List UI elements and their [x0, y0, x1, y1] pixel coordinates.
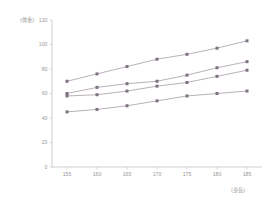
data-point-marker: [156, 99, 159, 102]
x-tick-label: 185: [243, 171, 252, 177]
data-point-marker: [186, 53, 189, 56]
data-point-marker: [246, 60, 249, 63]
data-point-marker: [96, 93, 99, 96]
data-point-marker: [126, 90, 129, 93]
data-point-marker: [216, 92, 219, 95]
y-tick-label: 80: [42, 66, 48, 72]
data-point-marker: [216, 47, 219, 50]
data-point-marker: [156, 58, 159, 61]
data-point-marker: [96, 72, 99, 75]
y-tick-label: 0: [45, 164, 48, 170]
data-point-marker: [96, 108, 99, 111]
x-axis-title: (身長): [231, 186, 245, 194]
data-point-marker: [246, 90, 249, 93]
chart-background: [0, 0, 279, 205]
data-point-marker: [246, 69, 249, 72]
x-tick-label: 165: [123, 171, 132, 177]
data-point-marker: [186, 74, 189, 77]
y-tick-label: 60: [42, 90, 48, 96]
x-tick-label: 160: [93, 171, 102, 177]
data-point-marker: [186, 94, 189, 97]
data-point-marker: [126, 65, 129, 68]
data-point-marker: [156, 85, 159, 88]
y-tick-label: 100: [39, 41, 48, 47]
y-tick-label: 20: [42, 139, 48, 145]
data-point-marker: [96, 86, 99, 89]
y-axis-title: (体重): [20, 16, 34, 24]
data-point-marker: [186, 81, 189, 84]
data-point-marker: [246, 39, 249, 42]
data-point-marker: [66, 94, 69, 97]
chart-container: 020406080100120 155160165170175180185 (体…: [0, 0, 279, 205]
line-chart: 020406080100120 155160165170175180185 (体…: [0, 0, 279, 205]
data-point-marker: [66, 110, 69, 113]
x-tick-label: 175: [183, 171, 192, 177]
y-tick-label: 40: [42, 115, 48, 121]
x-tick-label: 180: [213, 171, 222, 177]
x-tick-label: 155: [63, 171, 72, 177]
data-point-marker: [216, 75, 219, 78]
data-point-marker: [126, 104, 129, 107]
data-point-marker: [126, 82, 129, 85]
data-point-marker: [66, 80, 69, 83]
x-tick-label: 170: [153, 171, 162, 177]
y-tick-label: 120: [39, 17, 48, 23]
data-point-marker: [156, 80, 159, 83]
data-point-marker: [216, 66, 219, 69]
